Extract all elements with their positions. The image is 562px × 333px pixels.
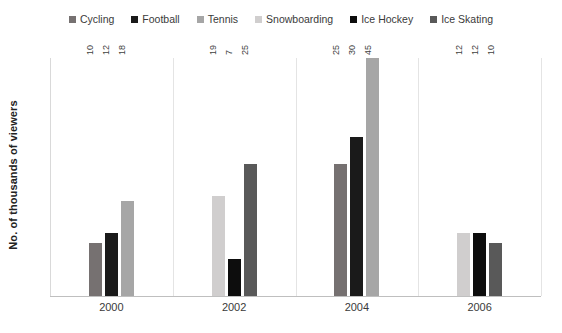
legend-swatch-icon	[255, 16, 262, 23]
legend-item[interactable]: Cycling	[69, 14, 114, 25]
bar-group-bars: 101218	[50, 58, 173, 296]
bar-group: 19725	[173, 58, 296, 296]
x-axis-line	[50, 296, 541, 297]
x-axis-tick-label: 2000	[50, 301, 173, 313]
bar-slot: 30	[350, 58, 363, 296]
bar-slot: 19	[212, 58, 225, 296]
x-axis-tick-label: 2002	[173, 301, 296, 313]
bar-value-label: 12	[455, 45, 464, 55]
chart-legend: CyclingFootballTennisSnowboardingIce Hoc…	[0, 14, 562, 25]
x-axis-tick-labels: 2000200220042006	[50, 301, 541, 321]
bar[interactable]: 10	[89, 243, 102, 296]
bar-slot: 45	[366, 58, 379, 296]
legend-item-label: Ice Hockey	[361, 14, 413, 25]
legend-item-label: Football	[142, 14, 179, 25]
bar[interactable]: 45	[366, 58, 379, 296]
bar-slot: 12	[473, 58, 486, 296]
bar-slot: 10	[489, 58, 502, 296]
bar-group-bars: 253045	[296, 58, 419, 296]
bar-group: 101218	[50, 58, 173, 296]
plot-area: 10121819725253045121210	[50, 58, 541, 296]
bar[interactable]: 12	[457, 233, 470, 296]
bar[interactable]: 30	[350, 137, 363, 296]
legend-swatch-icon	[69, 16, 76, 23]
bar[interactable]: 25	[334, 164, 347, 296]
legend-swatch-icon	[131, 16, 138, 23]
y-axis-title: No. of thousands of viewers	[2, 60, 24, 290]
bar-slot: 25	[244, 58, 257, 296]
x-axis-tick-label: 2006	[418, 301, 541, 313]
bar-chart: CyclingFootballTennisSnowboardingIce Hoc…	[0, 0, 562, 333]
legend-item[interactable]: Snowboarding	[255, 14, 333, 25]
bar-slot: 12	[457, 58, 470, 296]
bar-slot: 7	[228, 58, 241, 296]
bar-value-label: 10	[86, 45, 95, 55]
bar-slot: 10	[89, 58, 102, 296]
bar-value-label: 30	[348, 45, 357, 55]
bar[interactable]: 12	[105, 233, 118, 296]
bar-value-label: 10	[487, 45, 496, 55]
bar-group-bars: 121210	[418, 58, 541, 296]
bar-group-bars: 19725	[173, 58, 296, 296]
bar-slot: 18	[121, 58, 134, 296]
bar-value-label: 12	[102, 45, 111, 55]
legend-item-label: Snowboarding	[266, 14, 333, 25]
legend-swatch-icon	[197, 16, 204, 23]
bar[interactable]: 10	[489, 243, 502, 296]
bar-value-label: 25	[332, 45, 341, 55]
legend-item[interactable]: Ice Skating	[430, 14, 493, 25]
legend-item[interactable]: Football	[131, 14, 179, 25]
x-axis-tick-label: 2004	[296, 301, 419, 313]
legend-item[interactable]: Ice Hockey	[350, 14, 413, 25]
bar-group: 253045	[296, 58, 419, 296]
bar-value-label: 45	[364, 45, 373, 55]
bar-value-label: 7	[225, 50, 234, 55]
bar[interactable]: 7	[228, 259, 241, 296]
legend-item-label: Ice Skating	[441, 14, 493, 25]
bar-slot: 25	[334, 58, 347, 296]
bar[interactable]: 25	[244, 164, 257, 296]
legend-item-label: Tennis	[208, 14, 238, 25]
legend-item[interactable]: Tennis	[197, 14, 238, 25]
bar-value-label: 12	[471, 45, 480, 55]
bar-slot: 12	[105, 58, 118, 296]
legend-item-label: Cycling	[80, 14, 114, 25]
y-axis-title-label: No. of thousands of viewers	[7, 100, 19, 249]
bar-value-label: 18	[118, 45, 127, 55]
legend-swatch-icon	[430, 16, 437, 23]
legend-swatch-icon	[350, 16, 357, 23]
bar[interactable]: 18	[121, 201, 134, 296]
bar-value-label: 19	[209, 45, 218, 55]
bar-group: 121210	[418, 58, 541, 296]
bar[interactable]: 12	[473, 233, 486, 296]
bar-value-label: 25	[241, 45, 250, 55]
group-separator-line	[541, 58, 542, 296]
bar[interactable]: 19	[212, 196, 225, 296]
